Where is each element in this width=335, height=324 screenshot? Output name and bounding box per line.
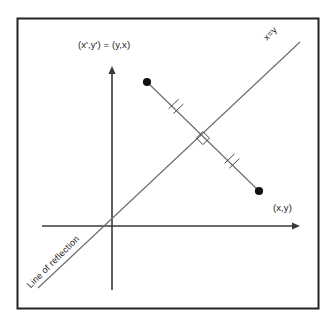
point-dot-icon — [143, 78, 151, 86]
point-dot-icon — [255, 187, 263, 195]
preimage-point-label: (x,y) — [273, 203, 292, 213]
reflection-figure: (x',y') = (y,x) (x,y) x=y Line of reflec… — [0, 0, 335, 324]
image-point-label: (x',y') = (y,x) — [78, 40, 130, 50]
figure-canvas — [0, 0, 335, 324]
